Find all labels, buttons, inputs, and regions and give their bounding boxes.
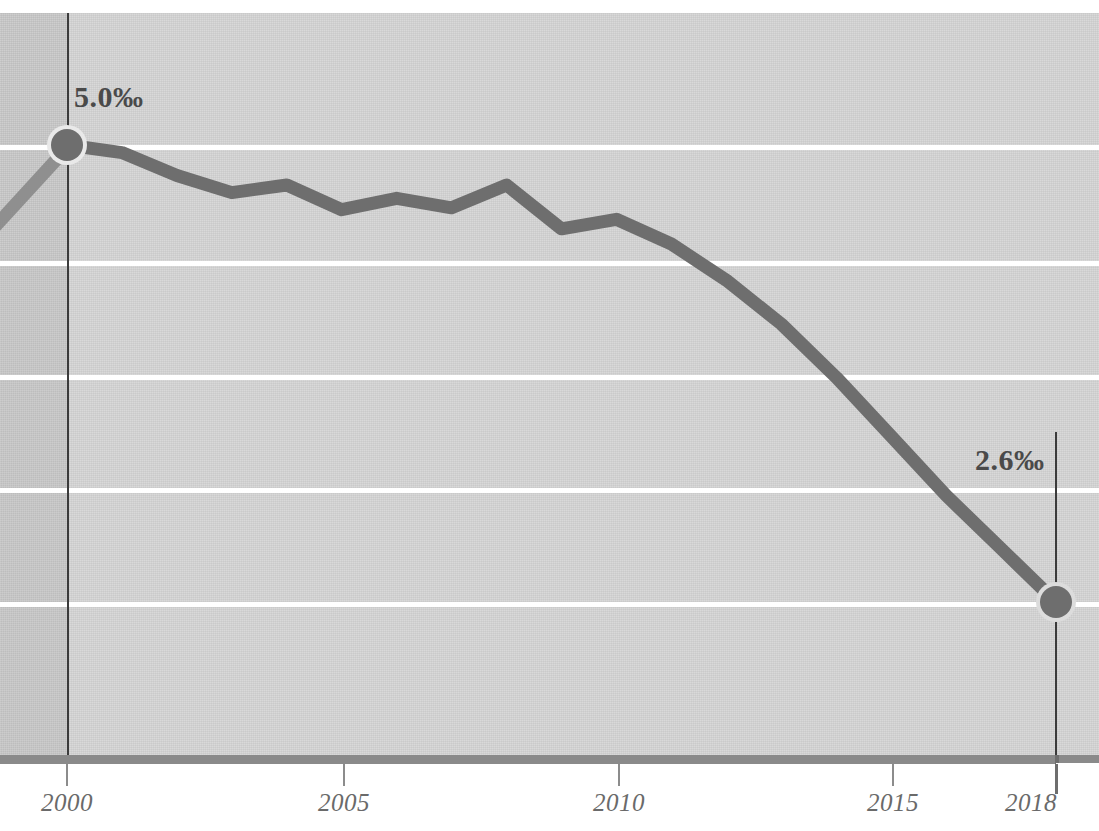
series-line [67, 145, 1056, 602]
x-tick-2000 [66, 764, 68, 786]
x-label-2000: 2000 [41, 789, 93, 817]
x-label-2005: 2005 [318, 789, 370, 817]
x-label-2018: 2018 [1005, 789, 1057, 817]
end-marker-dot [1040, 586, 1072, 618]
series-line-layer [0, 0, 1099, 831]
start-value-label: 5.0‰ [74, 80, 144, 114]
x-axis-bar [0, 755, 1099, 764]
right-margin [1056, 763, 1099, 831]
chart-root: 5.0‰ 2.6‰ 2000 2005 2010 2015 2018 [0, 0, 1099, 831]
x-tick-2015 [892, 764, 894, 786]
end-value-label: 2.6‰ [975, 443, 1045, 477]
x-label-2015: 2015 [867, 789, 919, 817]
x-label-2010: 2010 [593, 789, 645, 817]
x-tick-2010 [618, 764, 620, 786]
x-tick-2005 [343, 764, 345, 786]
start-marker-dot [51, 129, 83, 161]
